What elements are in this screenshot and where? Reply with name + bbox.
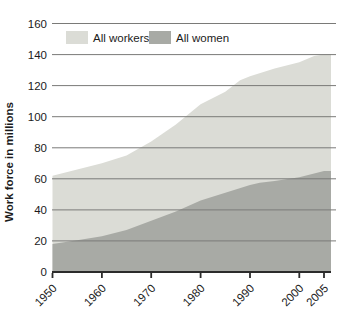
y-tick-label-40: 40	[34, 204, 47, 216]
chart-areas	[53, 55, 332, 272]
y-tick-label-80: 80	[34, 142, 47, 154]
y-axis-tick-labels: 020406080100120140160	[28, 18, 47, 279]
legend: All workers All women	[66, 31, 229, 44]
legend-label-all-workers: All workers	[93, 32, 149, 44]
workforce-area-chart: 020406080100120140160 195019601970198019…	[0, 0, 344, 312]
x-tick-label-1990: 1990	[230, 282, 257, 309]
x-tick-label-1960: 1960	[82, 282, 109, 309]
y-axis-title: Work force in millions	[3, 102, 15, 222]
legend-swatch-all-workers	[66, 31, 88, 44]
y-tick-label-160: 160	[28, 18, 47, 30]
y-tick-label-0: 0	[41, 266, 47, 278]
x-tick-label-2000: 2000	[279, 282, 306, 309]
x-axis	[52, 272, 331, 278]
y-tick-label-100: 100	[28, 111, 47, 123]
x-tick-label-1980: 1980	[180, 282, 207, 309]
legend-label-all-women: All women	[176, 32, 229, 44]
workforce-chart-figure: 020406080100120140160 195019601970198019…	[0, 0, 344, 312]
x-tick-label-1970: 1970	[131, 282, 158, 309]
y-tick-label-60: 60	[34, 173, 47, 185]
x-tick-label-1950: 1950	[32, 282, 59, 309]
y-tick-label-140: 140	[28, 49, 47, 61]
x-tick-label-2005: 2005	[304, 282, 331, 309]
y-tick-label-120: 120	[28, 80, 47, 92]
legend-swatch-all-women	[149, 31, 171, 44]
x-axis-tick-labels: 1950196019701980199020002005	[32, 282, 330, 309]
y-tick-label-20: 20	[34, 235, 47, 247]
